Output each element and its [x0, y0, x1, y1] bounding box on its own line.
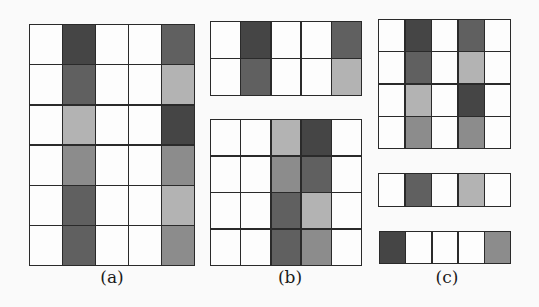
grid-panel-c-0	[378, 19, 511, 149]
grid-cell	[332, 59, 361, 95]
grid-cell	[432, 174, 457, 206]
grid-cell	[432, 117, 457, 148]
grid-cell	[302, 230, 331, 265]
grid-cell	[379, 20, 404, 51]
grid-cell	[302, 193, 331, 228]
grid-cell	[485, 117, 510, 148]
grid-panel-b-0	[210, 21, 362, 96]
grid-cell	[96, 186, 128, 225]
grid-cell	[485, 232, 510, 263]
grid-cell	[162, 146, 194, 185]
grid-cell	[406, 174, 431, 206]
grid-cell	[129, 106, 161, 145]
grid-cell	[30, 65, 62, 104]
panel-label-b: (b)	[278, 267, 302, 287]
grid-cell	[241, 120, 270, 155]
grid-cell	[211, 59, 240, 95]
grid-cell	[211, 193, 240, 228]
grid-cell	[211, 120, 240, 155]
grid-cell	[63, 226, 95, 265]
grid-panel-b-1	[210, 119, 362, 266]
grid-cell	[30, 186, 62, 225]
grid-cell	[96, 65, 128, 104]
grid-cell	[380, 232, 405, 263]
grid-cell	[302, 120, 331, 155]
grid-cell	[162, 25, 194, 64]
grid-cell	[63, 65, 95, 104]
grid-cell	[96, 106, 128, 145]
grid-cell	[432, 20, 457, 51]
grid-cell	[241, 193, 270, 228]
grid-cell	[211, 22, 240, 58]
grid-cell	[379, 174, 404, 206]
grid-cell	[379, 117, 404, 148]
grid-cell	[241, 59, 270, 95]
grid-cell	[272, 193, 301, 228]
grid-cell	[302, 59, 331, 95]
grid-cell	[485, 20, 510, 51]
grid-cell	[63, 186, 95, 225]
grid-cell	[129, 226, 161, 265]
grid-cell	[332, 120, 361, 155]
grid-cell	[241, 22, 270, 58]
grid-cell	[162, 186, 194, 225]
grid-cell	[241, 230, 270, 265]
grid-panel-a-0	[29, 24, 195, 266]
grid-cell	[332, 22, 361, 58]
grid-cell	[485, 174, 510, 206]
grid-cell	[379, 52, 404, 83]
grid-cell	[332, 193, 361, 228]
grid-cell	[406, 20, 431, 51]
grid-cell	[406, 85, 431, 116]
grid-cell	[129, 186, 161, 225]
grid-cell	[459, 232, 484, 263]
grid-cell	[129, 65, 161, 104]
grid-cell	[459, 174, 484, 206]
grid-cell	[332, 157, 361, 192]
grid-cell	[272, 59, 301, 95]
grid-panel-c-1	[378, 173, 511, 207]
grid-cell	[272, 230, 301, 265]
grid-cell	[433, 232, 458, 263]
grid-cell	[459, 52, 484, 83]
grid-cell	[406, 232, 431, 263]
grid-cell	[272, 22, 301, 58]
grid-cell	[241, 157, 270, 192]
grid-cell	[459, 20, 484, 51]
grid-cell	[30, 106, 62, 145]
grid-cell	[63, 146, 95, 185]
grid-cell	[302, 22, 331, 58]
grid-cell	[30, 25, 62, 64]
grid-cell	[379, 85, 404, 116]
grid-cell	[459, 85, 484, 116]
grid-cell	[332, 230, 361, 265]
grid-cell	[211, 230, 240, 265]
grid-cell	[30, 146, 62, 185]
grid-cell	[459, 117, 484, 148]
grid-cell	[432, 52, 457, 83]
grid-cell	[63, 106, 95, 145]
grid-cell	[63, 25, 95, 64]
grid-cell	[485, 85, 510, 116]
grid-cell	[272, 157, 301, 192]
grid-cell	[96, 226, 128, 265]
panel-label-a: (a)	[100, 267, 123, 287]
grid-cell	[129, 146, 161, 185]
grid-cell	[485, 52, 510, 83]
grid-cell	[272, 120, 301, 155]
grid-cell	[162, 226, 194, 265]
grid-cell	[406, 117, 431, 148]
grid-cell	[30, 226, 62, 265]
grid-cell	[432, 85, 457, 116]
grid-cell	[96, 146, 128, 185]
grid-cell	[211, 157, 240, 192]
grid-panel-c-2	[379, 231, 511, 264]
grid-cell	[406, 52, 431, 83]
grid-cell	[129, 25, 161, 64]
grid-cell	[302, 157, 331, 192]
grid-cell	[162, 65, 194, 104]
grid-cell	[162, 106, 194, 145]
grid-cell	[96, 25, 128, 64]
panel-label-c: (c)	[436, 267, 459, 287]
